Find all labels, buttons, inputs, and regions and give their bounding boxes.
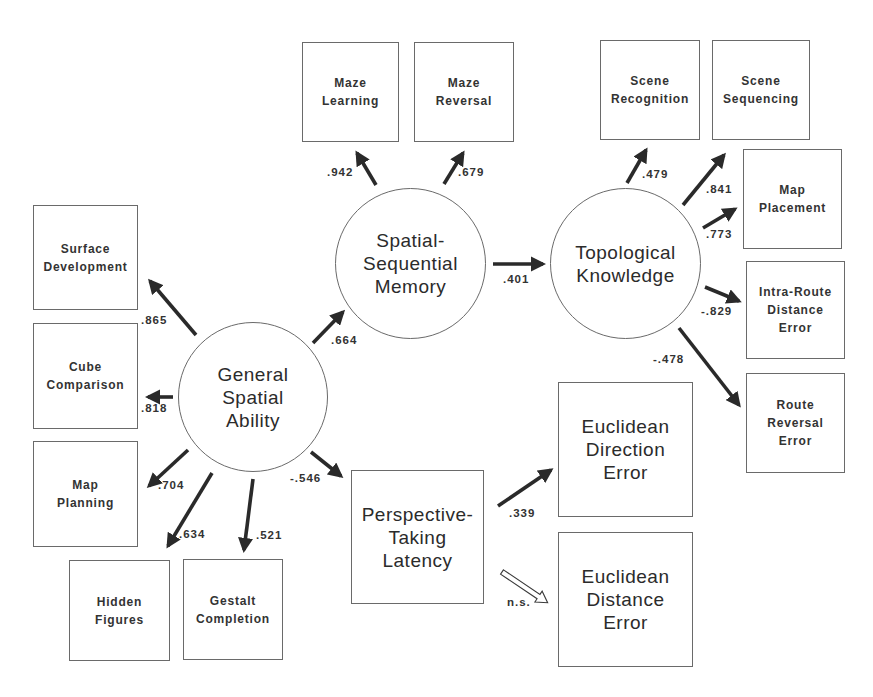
coef-gsa-ptl: -.546: [290, 472, 321, 484]
factor-spatial-sequential-memory: Spatial- Sequential Memory: [335, 188, 486, 339]
measure-label: Scene Sequencing: [723, 72, 799, 108]
coef-ptl-eucdist: n.s.: [507, 596, 531, 608]
measure-label: Gestalt Completion: [196, 592, 270, 628]
measure-scene-recognition: Scene Recognition: [600, 40, 700, 140]
coef-gsa-gestalt: .521: [256, 529, 282, 541]
coef-ssm-tk: .401: [503, 273, 529, 285]
arrow-tk-sceneseq: [683, 155, 724, 205]
arrow-tk-intraroute: [705, 287, 739, 301]
measure-label: Map Planning: [57, 476, 114, 512]
measure-route-reversal-error: Route Reversal Error: [746, 373, 845, 473]
arrow-ssm-mazelearn: [357, 153, 376, 185]
measure-map-placement: Map Placement: [743, 149, 842, 249]
measure-label: Perspective- Taking Latency: [362, 503, 474, 572]
arrow-gsa-gestalt: [244, 479, 253, 550]
measure-label: Intra-Route Distance Error: [759, 283, 832, 337]
measure-gestalt-completion: Gestalt Completion: [183, 559, 283, 660]
coef-tk-scenerec: .479: [642, 168, 668, 180]
measure-label: Surface Development: [43, 240, 127, 276]
coef-ssm-mazelearn: .942: [327, 166, 353, 178]
coef-gsa-hidden: .634: [179, 528, 205, 540]
coef-tk-routerev: -.478: [653, 353, 684, 365]
factor-general-spatial-ability: General Spatial Ability: [178, 322, 328, 472]
arrow-ptl-eucdir: [498, 470, 551, 506]
measure-hidden-figures: Hidden Figures: [69, 560, 170, 661]
coef-tk-sceneseq: .841: [706, 183, 732, 195]
measure-label: Hidden Figures: [95, 593, 144, 629]
arrow-gsa-surface: [150, 281, 196, 335]
measure-maze-reversal: Maze Reversal: [414, 42, 514, 142]
measure-map-planning: Map Planning: [33, 441, 138, 547]
measure-cube-comparison: Cube Comparison: [33, 323, 138, 429]
measure-perspective-taking-latency: Perspective- Taking Latency: [351, 470, 484, 604]
measure-maze-learning: Maze Learning: [302, 42, 399, 142]
coef-ssm-mazerev: .679: [458, 166, 484, 178]
factor-label: Spatial- Sequential Memory: [363, 229, 458, 298]
measure-intra-route-distance-error: Intra-Route Distance Error: [746, 261, 845, 359]
factor-label: General Spatial Ability: [217, 363, 288, 432]
measure-label: Maze Reversal: [436, 74, 492, 110]
arrow-tk-mapplace: [703, 209, 735, 228]
measure-label: Cube Comparison: [46, 358, 124, 394]
coef-gsa-ssm: .664: [331, 334, 357, 346]
coef-tk-mapplace: .773: [706, 228, 732, 240]
measure-scene-sequencing: Scene Sequencing: [712, 40, 810, 140]
coef-gsa-surface: .865: [141, 314, 167, 326]
coef-tk-intraroute: -.829: [701, 305, 732, 317]
measure-surface-development: Surface Development: [33, 205, 138, 310]
measure-label: Scene Recognition: [611, 72, 689, 108]
measure-label: Map Placement: [759, 181, 826, 217]
measure-euclidean-direction-error: Euclidean Direction Error: [558, 382, 693, 517]
measure-label: Euclidean Distance Error: [582, 565, 670, 634]
measure-euclidean-distance-error: Euclidean Distance Error: [558, 532, 693, 667]
coef-gsa-mapplan: .704: [158, 479, 184, 491]
coef-gsa-cube: .818: [141, 402, 167, 414]
factor-topological-knowledge: Topological Knowledge: [550, 188, 701, 339]
measure-label: Route Reversal Error: [767, 396, 823, 450]
coef-ptl-eucdir: .339: [509, 507, 535, 519]
factor-label: Topological Knowledge: [575, 241, 676, 287]
measure-label: Euclidean Direction Error: [582, 415, 670, 484]
measure-label: Maze Learning: [322, 74, 379, 110]
